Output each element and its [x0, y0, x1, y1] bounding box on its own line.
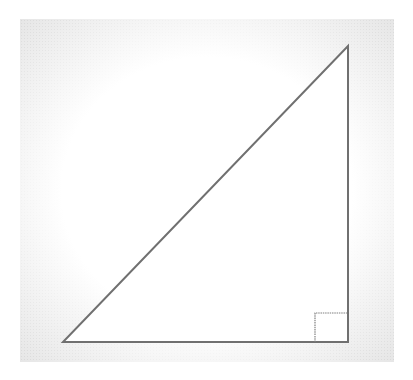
triangle [63, 46, 348, 342]
right-triangle-diagram [0, 0, 413, 380]
